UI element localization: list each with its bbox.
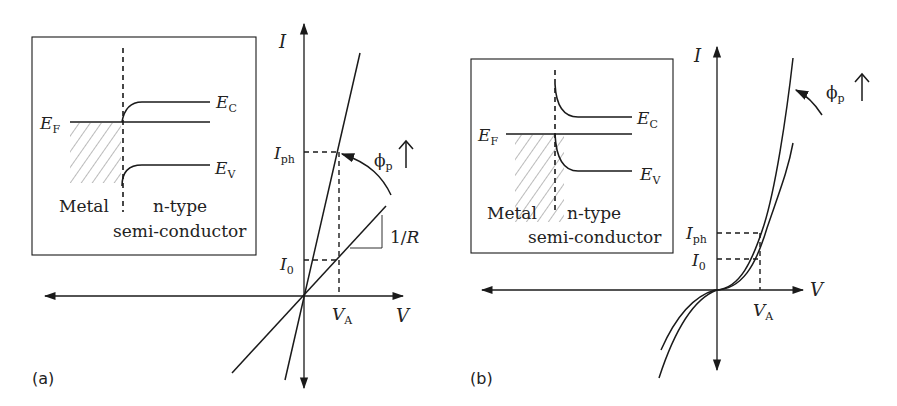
i-axis-label: I <box>278 31 287 52</box>
i-axis-label: I <box>693 45 702 66</box>
band-diagram-inset-a: EF EC EV Metal n-type semi-conductor <box>32 37 256 255</box>
flux-label: ϕp <box>826 82 845 105</box>
figure: EF EC EV Metal n-type semi-conductor I V… <box>0 0 897 406</box>
ev-label: EV <box>214 158 236 181</box>
inset-frame <box>471 59 673 253</box>
ec-label: EC <box>636 108 658 131</box>
metal-filled-states-hatch <box>70 123 122 183</box>
va-label: VA <box>332 304 353 327</box>
band-diagram-inset-b: EF EC EV Metal n-type semi-conductor <box>471 59 673 253</box>
panel-a-label: (a) <box>32 369 54 388</box>
i0-label: I0 <box>279 254 294 277</box>
photon-flux-curved-arrow <box>796 90 822 115</box>
valence-band-edge <box>122 165 210 186</box>
ef-label: EF <box>39 113 60 136</box>
slope-triangle <box>350 215 382 248</box>
v-axis-label: V <box>810 279 825 300</box>
dark-iv-line <box>232 206 386 373</box>
semiconductor-label: semi-conductor <box>528 227 662 247</box>
i0-label: I0 <box>691 250 706 273</box>
valence-band-edge <box>555 134 632 171</box>
iph-label: Iph <box>685 223 707 246</box>
illuminated-iv-line <box>285 53 360 380</box>
flux-label: ϕp <box>374 150 393 173</box>
iph-label: Iph <box>273 143 295 166</box>
v-axis-label: V <box>396 305 411 326</box>
n-type-label: n-type <box>153 196 207 216</box>
conduction-band-edge <box>122 102 210 122</box>
ec-label: EC <box>215 92 237 115</box>
ef-label: EF <box>477 125 498 148</box>
illuminated-iv-curve <box>659 58 793 378</box>
panel-b-label: (b) <box>470 369 493 388</box>
panel-a: EF EC EV Metal n-type semi-conductor I V… <box>32 24 420 388</box>
ev-label: EV <box>639 164 661 187</box>
panel-b: EF EC EV Metal n-type semi-conductor I V… <box>470 45 869 388</box>
va-label: VA <box>753 300 774 323</box>
metal-label: Metal <box>59 196 109 216</box>
n-type-label: n-type <box>567 203 621 223</box>
conduction-band-edge <box>555 84 632 117</box>
semiconductor-label: semi-conductor <box>113 221 247 241</box>
slope-label: 1/R <box>390 227 420 247</box>
metal-label: Metal <box>487 203 537 223</box>
